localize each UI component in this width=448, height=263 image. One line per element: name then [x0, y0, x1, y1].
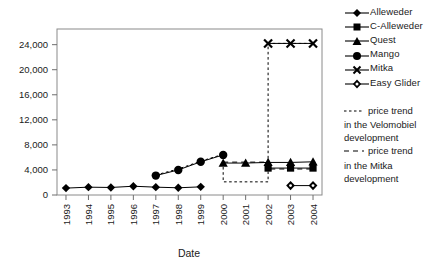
x-tick-label: 1993 — [61, 204, 72, 225]
legend-item-label: Mango — [370, 48, 400, 59]
data-point-square — [309, 164, 316, 171]
x-tick-label: 2000 — [218, 204, 229, 225]
plot-frame — [57, 29, 322, 195]
x-tick-label: 2004 — [308, 204, 319, 225]
dotted-line-icon — [344, 105, 364, 118]
x-axis: 1993199419951996199719981999200020012002… — [61, 195, 319, 225]
legend-item[interactable]: Alleweder — [344, 4, 448, 18]
legend-item[interactable]: C-Alleweder — [344, 18, 448, 32]
legend-item[interactable]: Easy Glider — [344, 75, 448, 89]
cross-icon — [344, 62, 370, 74]
chart-legend: Alleweder C-Alleweder Quest — [344, 4, 448, 89]
legend-item-label: Mitka — [370, 62, 393, 73]
plot-area — [57, 29, 322, 195]
data-point-circle — [219, 151, 227, 159]
mitka-note-line-3: development — [344, 172, 448, 185]
y-tick-label: 24,000 — [19, 39, 48, 50]
velomobiel-note-text-1: price trend — [368, 105, 413, 116]
y-axis: 04,0008,00012,00016,00020,00024,000 — [19, 39, 57, 200]
trend-annotations: price trend in the Velomobiel developmen… — [344, 104, 448, 185]
x-tick-label: 2002 — [263, 204, 274, 225]
y-tick-label: 12,000 — [19, 114, 48, 125]
y-tick-label: 20,000 — [19, 64, 48, 75]
data-point-diamond-dot-center — [312, 184, 315, 187]
legend-item-label: Alleweder — [370, 6, 413, 17]
y-tick-label: 0 — [43, 189, 48, 200]
x-tick-label: 1999 — [195, 204, 206, 225]
data-point-diamond-dot-center — [289, 184, 292, 187]
legend-item-label: Easy Glider — [370, 77, 420, 88]
mitka-note-line-2: in the Mitka — [344, 159, 448, 172]
triangle-icon — [344, 33, 370, 45]
velomobiel-note-line-3: development — [344, 131, 448, 144]
diamond-icon — [344, 5, 370, 17]
legend-item[interactable]: Mango — [344, 47, 448, 61]
data-point-circle — [152, 171, 160, 179]
y-tick-label: 16,000 — [19, 89, 48, 100]
x-axis-title: Date — [178, 247, 200, 259]
legend-item-label: Quest — [370, 34, 396, 45]
x-tick-label: 2001 — [240, 204, 251, 225]
legend-item[interactable]: Quest — [344, 32, 448, 46]
legend-item-label: C-Alleweder — [370, 20, 423, 31]
x-tick-label: 1996 — [128, 204, 139, 225]
square-icon — [344, 19, 370, 31]
x-tick-label: 1997 — [150, 204, 161, 225]
data-point-circle — [174, 166, 182, 174]
y-tick-label: 8,000 — [24, 139, 48, 150]
data-point-circle — [197, 158, 205, 166]
velomobiel-note-line-2: in the Velomobiel — [344, 118, 448, 131]
chart-root: 04,0008,00012,00016,00020,00024,000 1993… — [0, 0, 448, 263]
x-tick-label: 2003 — [285, 204, 296, 225]
x-tick-label: 1998 — [173, 204, 184, 225]
circle-icon — [344, 48, 370, 60]
x-tick-label: 1994 — [83, 204, 94, 225]
velomobiel-note-line-1: price trend — [344, 104, 448, 118]
mitka-note-line-1: price trend — [344, 144, 448, 158]
legend-item[interactable]: Mitka — [344, 61, 448, 75]
y-tick-label: 4,000 — [24, 164, 48, 175]
diamond-dot-icon — [344, 76, 370, 88]
x-tick-label: 1995 — [105, 204, 116, 225]
dashed-line-icon — [344, 145, 364, 158]
mitka-note-text-1: price trend — [368, 145, 413, 156]
